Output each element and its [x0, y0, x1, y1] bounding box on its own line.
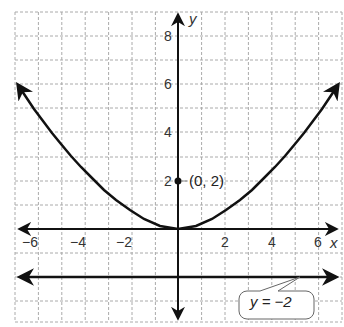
focus-label: (0, 2) [189, 172, 224, 189]
y-axis-label: y [189, 10, 197, 27]
tick-label-y: 2 [164, 173, 172, 189]
directrix-label: y = −2 [250, 293, 292, 310]
tick-label-x: −4 [70, 234, 86, 250]
tick-label-x: 4 [268, 234, 276, 250]
tick-label-y: 4 [164, 124, 172, 140]
x-axis-label: x [330, 234, 338, 251]
tick-label-x: −6 [22, 234, 38, 250]
tick-label-x: 6 [314, 234, 322, 250]
tick-label-y: 6 [164, 76, 172, 92]
tick-label-x: −2 [116, 234, 132, 250]
tick-label-x: 2 [221, 234, 229, 250]
tick-label-y: 8 [164, 28, 172, 44]
